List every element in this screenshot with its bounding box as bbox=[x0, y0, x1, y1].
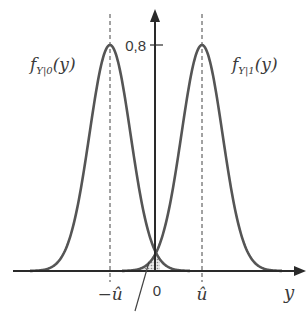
density-diagram: 0,8 fY|0(y) fY|1(y) −û 0 û y bbox=[0, 0, 307, 321]
x-axis-label: y bbox=[283, 282, 295, 303]
label-f-y-given-0: fY|0(y) bbox=[28, 54, 76, 77]
x-tick-pos-u: û bbox=[197, 284, 208, 304]
y-tick-label: 0,8 bbox=[125, 37, 146, 54]
x-tick-neg-u: −û bbox=[97, 284, 122, 304]
y-axis-arrow-icon bbox=[150, 9, 160, 22]
x-tick-zero: 0 bbox=[153, 282, 161, 299]
x-axis-arrow-icon bbox=[294, 266, 306, 276]
diagram-canvas: 0,8 fY|0(y) fY|1(y) −û 0 û y bbox=[0, 0, 307, 321]
label-f-y-given-1: fY|1(y) bbox=[230, 54, 278, 77]
